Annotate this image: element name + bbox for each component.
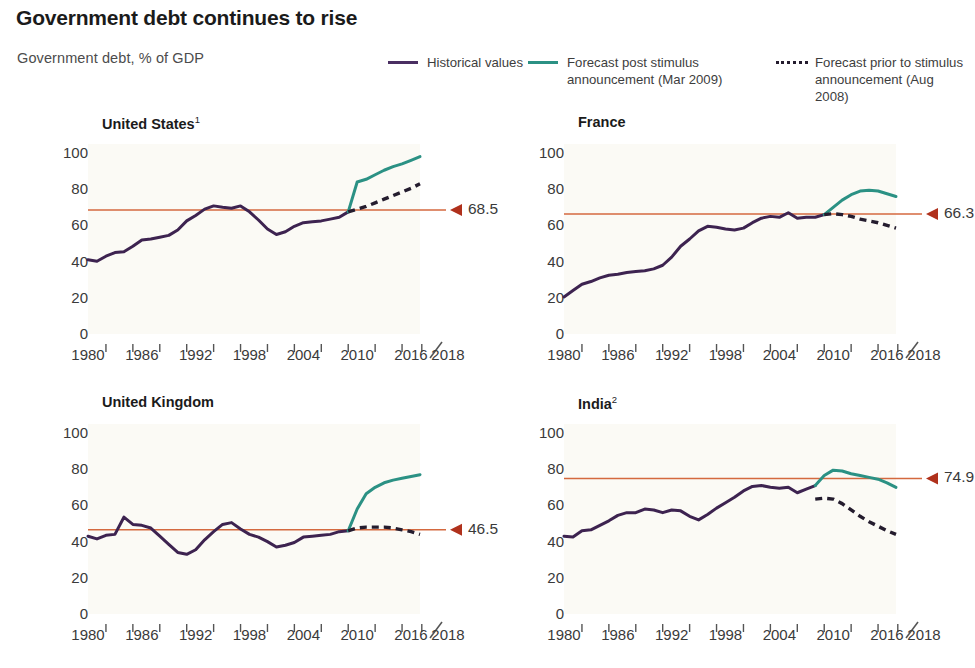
x-axis-tick-label: 1998 [233,626,266,643]
chart-panel-united-kingdom: United Kingdom 100806040200 198019861992… [16,392,486,652]
line-swatch-icon [528,57,558,69]
x-axis-tick-label: 1998 [709,346,742,363]
chart-panel-united-states: United States1 100806040200 198019861992… [16,112,486,372]
reference-value-callout: 74.9 [944,468,974,486]
x-axis-tick-label: 2016 [870,626,903,643]
x-axis-labels: 19801986199219982004201020162018 [492,614,962,648]
page-title: Government debt continues to rise [16,6,357,30]
x-axis-tick-label: 2010 [341,626,374,643]
chart-panel-france: France 100806040200 19801986199219982004… [492,112,962,372]
x-axis-tick-label: 1992 [655,626,688,643]
x-axis-tick-label: 2018 [907,626,940,643]
panel-title: United States1 [102,114,200,132]
legend-label: Historical values [427,54,523,71]
x-axis-tick-label: 2010 [341,346,374,363]
legend-item-forecast-post: Forecast post stimulus announcement (Mar… [528,54,722,88]
x-axis-tick-label: 1980 [71,346,104,363]
panel-title: United Kingdom [102,394,214,410]
x-axis-tick-label: 2018 [907,346,940,363]
x-axis-tick-label: 1986 [125,626,158,643]
x-axis-tick-label: 2010 [817,626,850,643]
legend-item-historical: Historical values [388,54,523,71]
legend-item-forecast-prior: Forecast prior to stimulus announcement … [776,54,968,105]
x-axis-tick-label: 1980 [547,626,580,643]
reference-arrow-marker-icon [926,472,938,484]
legend-label: Forecast post stimulus announcement (Mar… [567,54,722,88]
chart-panel-india: India2 100806040200 19801986199219982004… [492,392,962,652]
x-axis-tick-label: 1986 [601,346,634,363]
plot-background [88,144,420,334]
x-axis-tick-label: 1980 [547,346,580,363]
plot-background [564,144,896,334]
reference-arrow-marker-icon [450,524,462,536]
x-axis-tick-label: 2004 [287,346,320,363]
x-axis-tick-label: 1992 [179,346,212,363]
x-axis-tick-label: 2016 [394,626,427,643]
x-axis-labels: 19801986199219982004201020162018 [492,334,962,368]
x-axis-tick-label: 1986 [125,346,158,363]
x-axis-tick-label: 2016 [394,346,427,363]
reference-value-callout: 66.3 [944,204,974,222]
reference-arrow-marker-icon [926,208,938,220]
x-axis-labels: 19801986199219982004201020162018 [16,614,486,648]
reference-arrow-marker-icon [450,204,462,216]
x-axis-tick-label: 1998 [709,626,742,643]
dashed-line-swatch-icon [776,57,806,69]
x-axis-tick-label: 2004 [763,626,796,643]
chart-legend: Historical values Forecast post stimulus… [388,50,968,100]
legend-label: Forecast prior to stimulus announcement … [815,54,968,105]
panel-title: India2 [578,394,617,412]
panel-title: France [578,114,626,130]
x-axis-tick-label: 1986 [601,626,634,643]
panel-title-footnote-marker: 2 [612,394,617,405]
chart-page: Government debt continues to rise Govern… [0,0,975,668]
x-axis-tick-label: 1980 [71,626,104,643]
panel-title-footnote-marker: 1 [195,114,200,125]
x-axis-tick-label: 1992 [655,346,688,363]
x-axis-tick-label: 2004 [763,346,796,363]
x-axis-tick-label: 1992 [179,626,212,643]
x-axis-tick-label: 2018 [431,346,464,363]
x-axis-labels: 19801986199219982004201020162018 [16,334,486,368]
x-axis-tick-label: 2010 [817,346,850,363]
chart-subtitle: Government debt, % of GDP [17,50,204,66]
plot-background [88,424,420,614]
x-axis-tick-label: 2016 [870,346,903,363]
x-axis-tick-label: 2004 [287,626,320,643]
line-swatch-icon [388,57,418,69]
x-axis-tick-label: 2018 [431,626,464,643]
x-axis-tick-label: 1998 [233,346,266,363]
